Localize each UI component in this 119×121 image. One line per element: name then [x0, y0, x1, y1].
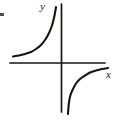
math-graph-figure: y x	[0, 0, 119, 121]
axes-group	[10, 4, 105, 112]
scan-edge-artifact	[0, 13, 4, 16]
hyperbola-branch-lower-right	[68, 68, 108, 114]
graph-canvas	[0, 0, 119, 121]
x-axis-label: x	[106, 69, 111, 80]
y-axis-label: y	[40, 1, 45, 12]
curve-group	[13, 7, 108, 114]
hyperbola-branch-upper-left	[13, 7, 56, 57]
